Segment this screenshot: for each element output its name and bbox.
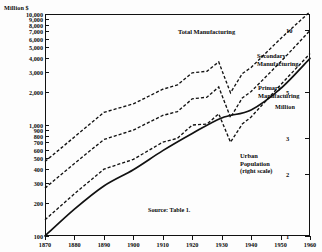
primary-manufacturing-label: Primary Manufacturing <box>258 84 300 99</box>
x-tick-mark <box>133 236 134 240</box>
y-tick-mark <box>45 125 49 126</box>
y-tick-label: 4,000 <box>29 55 43 62</box>
x-tick-label: 1870 <box>39 241 51 248</box>
y-tick-label: 100 <box>34 233 43 240</box>
y-tick-mark <box>45 72 49 73</box>
right-axis-labels: 123510 <box>286 0 308 252</box>
x-tick-mark <box>251 236 252 240</box>
y-tick-label: 7,000 <box>29 28 43 35</box>
y-tick-label: 400 <box>34 166 43 173</box>
y2-tick-label: 1 <box>286 233 289 240</box>
x-tick-mark <box>281 236 282 240</box>
x-tick-label: 1910 <box>157 241 169 248</box>
x-tick-label: 1930 <box>215 241 227 248</box>
x-tick-mark <box>45 236 46 240</box>
y-tick-label: 3,000 <box>29 69 43 76</box>
y2-tick-label: 10 <box>286 27 292 34</box>
y2-tick-mark <box>305 138 310 139</box>
y-tick-mark <box>45 136 49 137</box>
y2-tick-mark <box>305 174 310 175</box>
plot-area <box>45 14 310 236</box>
y-tick-mark <box>45 58 49 59</box>
y-tick-mark <box>45 169 49 170</box>
secondary-manufacturing-label: Secondary Manufacturing <box>257 52 299 67</box>
y-tick-label: 5,000 <box>29 44 43 51</box>
y-tick-mark <box>45 130 49 131</box>
x-tick-label: 1960 <box>304 241 316 248</box>
y2-tick-label: 2 <box>286 171 289 178</box>
y-tick-mark <box>45 158 49 159</box>
y-tick-mark <box>45 47 49 48</box>
y-tick-mark <box>45 92 49 93</box>
x-tick-label: 1920 <box>186 241 198 248</box>
left-axis-labels: 1002003004005006007008009001,0002,0003,0… <box>0 0 43 252</box>
y-tick-label: 10,000 <box>26 11 43 18</box>
y-tick-mark <box>45 14 49 15</box>
total-manufacturing-label: Total Manufacturing <box>178 28 235 36</box>
x-tick-mark <box>310 236 311 240</box>
y2-tick-mark <box>305 92 310 93</box>
x-tick-label: 1940 <box>245 241 257 248</box>
x-tick-mark <box>74 236 75 240</box>
y-tick-mark <box>45 142 49 143</box>
source-note: Source: Table 1. <box>148 206 190 213</box>
x-tick-mark <box>104 236 105 240</box>
y-tick-label: 2,000 <box>29 88 43 95</box>
y-tick-mark <box>45 203 49 204</box>
y-tick-label: 300 <box>34 180 43 187</box>
x-tick-mark <box>222 236 223 240</box>
y-tick-label: 600 <box>34 146 43 153</box>
x-tick-mark <box>192 236 193 240</box>
y-tick-mark <box>45 39 49 40</box>
x-tick-label: 1900 <box>127 241 139 248</box>
y-tick-label: 700 <box>34 139 43 146</box>
y-tick-label: 1,000 <box>29 122 43 129</box>
y-tick-label: 6,000 <box>29 35 43 42</box>
urban-population-label: Urban Population (right scale) <box>240 152 272 175</box>
y2-tick-mark <box>305 30 310 31</box>
y-tick-mark <box>45 25 49 26</box>
y-tick-mark <box>45 150 49 151</box>
x-tick-label: 1890 <box>98 241 110 248</box>
x-tick-label: 1950 <box>274 241 286 248</box>
y-tick-label: 500 <box>34 155 43 162</box>
y2-tick-label: 3 <box>286 134 289 141</box>
y-tick-label: 200 <box>34 199 43 206</box>
x-tick-mark <box>163 236 164 240</box>
y-tick-mark <box>45 31 49 32</box>
x-tick-label: 1880 <box>68 241 80 248</box>
chart-figure: Million $ 1002003004005006007008009001,0… <box>0 0 322 252</box>
y-tick-mark <box>45 183 49 184</box>
y-tick-mark <box>45 19 49 20</box>
